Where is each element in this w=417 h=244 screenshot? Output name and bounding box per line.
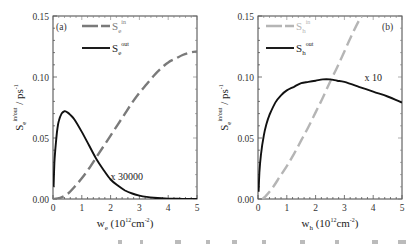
legend-subscript: e [118, 49, 121, 57]
x-label-close: ) [150, 217, 154, 230]
x-label-unit-cm: cm [131, 217, 145, 229]
x-label-unit: (10 [313, 217, 331, 230]
x-tick-label: 4 [166, 203, 171, 213]
x-tick-label: 3 [342, 203, 347, 213]
legend-label: Shin [296, 19, 310, 35]
x-tick-label: 5 [400, 203, 405, 213]
y-label-unit: / ps [218, 89, 230, 107]
y-tick-label: 0.00 [237, 195, 254, 205]
x-tick-label: 0 [256, 203, 261, 213]
legend-superscript: out [121, 41, 129, 47]
x-label-unit: (10 [108, 217, 126, 230]
x-tick-label: 0 [51, 203, 56, 213]
y-label-unit-exponent: -1 [218, 84, 224, 89]
legend-subscript: e [118, 27, 121, 35]
legend-label: Shout [296, 41, 314, 57]
caption-text-fragment [335, 240, 339, 244]
panel-label: (b) [382, 22, 393, 33]
scale-annotation: x 30000 [111, 171, 144, 182]
caption-text-fragment [175, 240, 181, 244]
x-axis-label: we (1012cm-2) [97, 217, 154, 232]
x-axis-label: wh (1012cm-2) [302, 217, 359, 232]
panel-b: 0123450.000.050.100.15wh (1012cm-2)Sein/… [217, 12, 405, 233]
x-tick-label: 2 [108, 203, 113, 213]
caption-fragment [118, 240, 406, 244]
x-tick-label: 5 [195, 203, 200, 213]
y-tick-label: 0.05 [32, 134, 49, 144]
legend-superscript: in [306, 19, 311, 25]
panel-label: (a) [56, 22, 67, 33]
x-label-close: ) [355, 217, 359, 230]
series-line-s-h-out [259, 79, 402, 191]
y-tick-label: 0.10 [237, 73, 254, 83]
y-tick-label: 0.10 [32, 73, 49, 83]
caption-text-fragment [118, 240, 122, 244]
caption-text-fragment [262, 240, 266, 244]
panel-a: 0123450.000.050.100.15we (1012cm-2)Sein/… [12, 12, 200, 233]
y-tick-label: 0.15 [32, 12, 49, 22]
y-tick-label: 0.15 [237, 12, 254, 22]
caption-text-fragment [140, 240, 143, 244]
figure: 0123450.000.050.100.15we (1012cm-2)Sein/… [0, 0, 417, 244]
plot-frame [258, 16, 402, 199]
x-tick-label: 1 [79, 203, 84, 213]
scale-annotation: x 10 [365, 72, 383, 83]
caption-text-fragment [372, 240, 378, 244]
y-label-subscript: e [225, 122, 233, 125]
y-tick-label: 0.00 [32, 195, 49, 205]
legend-superscript: out [306, 41, 314, 47]
y-axis-label: Sein/out / ps-1 [12, 84, 28, 131]
y-axis-label: Sein/out / ps-1 [217, 84, 233, 131]
x-tick-label: 1 [284, 203, 289, 213]
legend-superscript: in [121, 19, 126, 25]
x-tick-label: 3 [137, 203, 142, 213]
legend-subscript: h [302, 27, 306, 35]
y-tick-label: 0.05 [237, 134, 254, 144]
y-label-subscript: e [20, 122, 28, 125]
legend-label: Seout [112, 41, 129, 57]
x-tick-label: 2 [313, 203, 318, 213]
x-label-symbol: w [97, 217, 105, 229]
caption-text-fragment [398, 240, 406, 244]
caption-text-fragment [300, 240, 305, 244]
y-label-unit-exponent: -1 [13, 84, 19, 89]
x-tick-label: 4 [371, 203, 376, 213]
caption-text-fragment [232, 240, 237, 244]
x-label-symbol: w [302, 217, 310, 229]
y-label-superscript: in/out [217, 107, 223, 121]
x-label-unit-cm: cm [336, 217, 350, 229]
legend-label: Sein [112, 19, 126, 35]
y-label-unit: / ps [13, 89, 25, 107]
caption-text-fragment [206, 240, 210, 244]
y-label-superscript: in/out [12, 107, 18, 121]
legend-subscript: h [302, 49, 306, 57]
